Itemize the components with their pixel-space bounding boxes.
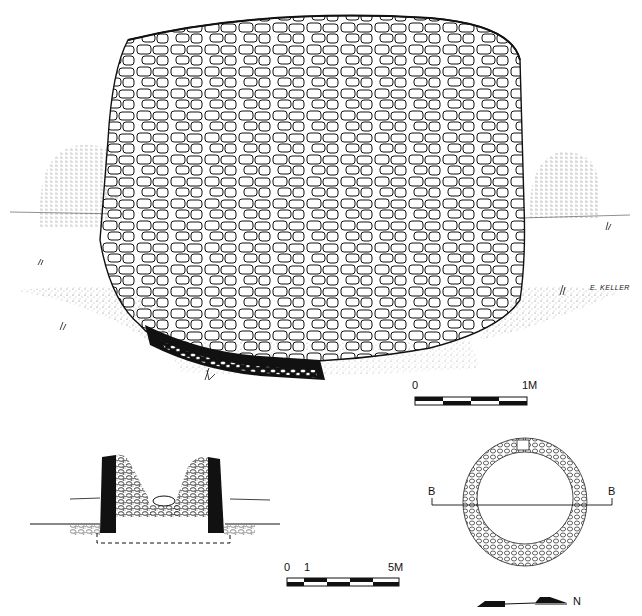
north-arrow: N bbox=[475, 592, 595, 612]
section-label-right: B bbox=[608, 486, 615, 497]
artist-signature: E. KELLER bbox=[590, 284, 630, 291]
background-tower-right bbox=[530, 152, 600, 218]
tower-elevation: E. KELLER bbox=[0, 0, 642, 400]
scale-bar-graphic bbox=[410, 380, 540, 410]
section-scale-bar: 0 1 5M bbox=[282, 562, 412, 592]
tower-plan-drawing bbox=[420, 430, 630, 580]
tower-elevation-drawing bbox=[0, 0, 642, 400]
elevation-scale-bar: 0 1M bbox=[410, 380, 540, 410]
scale-bar-graphic bbox=[282, 562, 412, 592]
tower-section bbox=[30, 445, 280, 555]
north-label: N bbox=[573, 596, 581, 607]
tower-section-drawing bbox=[30, 445, 280, 555]
section-label-left: B bbox=[428, 486, 435, 497]
tower-plan: B B bbox=[420, 430, 630, 580]
